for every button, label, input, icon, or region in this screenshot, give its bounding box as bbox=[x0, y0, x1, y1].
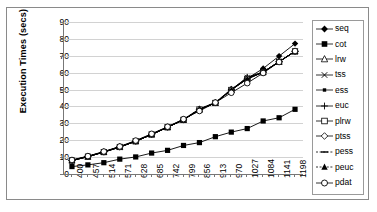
legend-label: pdat bbox=[334, 178, 352, 187]
small-filled-square-icon bbox=[315, 83, 334, 97]
legend-item-ptss[interactable]: ptss bbox=[313, 129, 363, 144]
chart-legend: seqcotlrwtssesseucplrwptsspesspeucpdat bbox=[312, 20, 364, 195]
open-diamond-icon bbox=[315, 129, 334, 143]
legend-item-lrw[interactable]: lrw bbox=[313, 52, 363, 67]
open-square-icon bbox=[315, 114, 334, 128]
chart-frame: Execution Times (secs) 90807060504030201… bbox=[6, 7, 369, 200]
legend-item-pdat[interactable]: pdat bbox=[313, 175, 363, 190]
legend-label: pess bbox=[334, 147, 353, 156]
legend-label: peuc bbox=[334, 163, 353, 172]
legend-item-euc[interactable]: euc bbox=[313, 98, 363, 113]
filled-diamond-icon bbox=[315, 22, 334, 36]
plus-icon bbox=[315, 99, 334, 113]
plot-area bbox=[63, 22, 303, 175]
legend-item-cot[interactable]: cot bbox=[313, 36, 363, 51]
legend-item-ess[interactable]: ess bbox=[313, 83, 363, 98]
legend-label: ptss bbox=[334, 132, 351, 141]
legend-label: ess bbox=[334, 86, 348, 95]
legend-item-pess[interactable]: pess bbox=[313, 144, 363, 159]
legend-label: lrw bbox=[334, 55, 346, 64]
filled-square-icon bbox=[315, 37, 334, 51]
legend-label: euc bbox=[334, 101, 349, 110]
legend-label: tss bbox=[334, 70, 346, 79]
legend-item-plrw[interactable]: plrw bbox=[313, 113, 363, 128]
cross-x-icon bbox=[315, 68, 334, 82]
legend-item-seq[interactable]: seq bbox=[313, 21, 363, 36]
series-layer bbox=[64, 22, 303, 174]
filled-triangle-icon bbox=[315, 160, 334, 174]
legend-label: cot bbox=[334, 40, 346, 49]
y-axis-title: Execution Times (secs) bbox=[18, 1, 28, 121]
open-circle-icon bbox=[315, 176, 334, 190]
legend-label: seq bbox=[334, 24, 349, 33]
dash-icon bbox=[315, 145, 334, 159]
gridline bbox=[64, 174, 303, 175]
legend-item-peuc[interactable]: peuc bbox=[313, 160, 363, 175]
legend-item-tss[interactable]: tss bbox=[313, 67, 363, 82]
legend-label: plrw bbox=[334, 117, 351, 126]
open-triangle-icon bbox=[315, 52, 334, 66]
